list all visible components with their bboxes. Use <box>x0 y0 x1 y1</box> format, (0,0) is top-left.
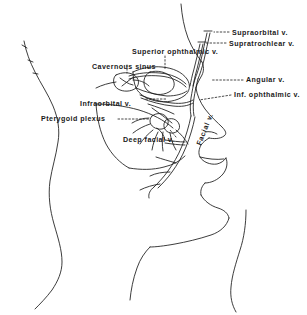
label-infraorbital-vein: Infraorbital v. <box>80 101 131 108</box>
neck-front-contour <box>231 210 246 312</box>
chin-crease <box>201 183 205 195</box>
facial-vein <box>154 116 191 187</box>
hair-tick-1 <box>22 45 27 48</box>
label-pterygoid-plexus: Pterygoid plexus <box>41 116 105 123</box>
hair-tick-3 <box>33 73 38 74</box>
cheek-contour <box>130 247 150 300</box>
back-of-head-contour <box>24 41 62 309</box>
label-superior-ophthalmic-vein: Superior ophthalmic v. <box>132 49 218 56</box>
anatomy-figure: Supraorbital v. Supratrochlear v. Superi… <box>0 0 307 315</box>
leader-inf-ophthalmic <box>199 95 231 100</box>
label-supratrochlear-vein: Supratrochlear v. <box>229 41 294 48</box>
pterygoid-plexus-strand-2 <box>133 124 150 133</box>
upper-lip <box>199 145 226 164</box>
chin-profile <box>201 195 229 218</box>
facial-vein-tributary-1 <box>156 157 176 163</box>
lower-lip <box>205 158 227 183</box>
infraorbital-vein-branch <box>152 108 172 123</box>
label-inferior-ophthalmic-vein: Inf. ophthalmic v. <box>234 92 300 99</box>
sinus-outflow <box>96 82 116 88</box>
orbital-rim <box>133 67 189 102</box>
jaw-line <box>150 218 229 247</box>
mouth-line <box>200 157 224 159</box>
label-cavernous-sinus: Cavernous sinus <box>92 64 156 71</box>
facial-vein-hook <box>149 187 154 198</box>
label-angular-vein: Angular v. <box>246 77 285 84</box>
facial-vein-tributary-3 <box>140 184 160 190</box>
label-deep-facial-vein: Deep facial v. <box>123 137 174 144</box>
label-supraorbital-vein: Supraorbital v. <box>232 30 288 37</box>
